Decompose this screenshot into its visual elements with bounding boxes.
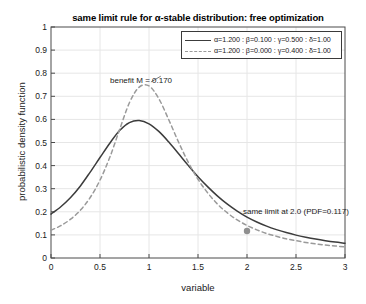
data-markers-layer	[244, 228, 250, 234]
grid-lines	[51, 27, 345, 258]
legend-label-series-1: α=1.200 : β=0.100 : γ=0.500 : δ=1.00	[214, 35, 331, 44]
chart-figure: same limit rule for α-stable distributio…	[0, 0, 366, 304]
legend-line-solid-icon	[185, 35, 211, 45]
chart-legend: α=1.200 : β=0.100 : γ=0.500 : δ=1.00 α=1…	[181, 31, 342, 59]
same-limit-point-marker	[244, 228, 250, 234]
legend-label-series-2: α=1.200 : β=0.000 : γ=0.400 : δ=1.00	[214, 46, 331, 55]
benefit-annotation: benefit M = 0.170	[110, 76, 172, 85]
legend-item-series-2: α=1.200 : β=0.000 : γ=0.400 : δ=1.00	[185, 45, 338, 56]
same-limit-annotation: same limit at 2.0 (PDF=0.117)	[243, 207, 349, 216]
legend-line-dashed-icon	[185, 46, 211, 56]
legend-item-series-1: α=1.200 : β=0.100 : γ=0.500 : δ=1.00	[185, 34, 338, 45]
